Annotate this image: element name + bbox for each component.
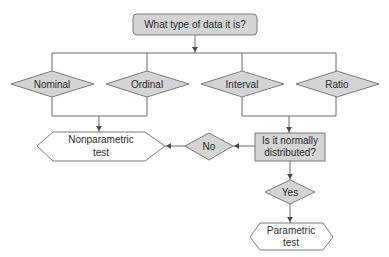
nonparametric-label-line2: test	[93, 147, 109, 158]
flowchart: What type of data it is? Nominal Ordinal…	[0, 0, 389, 257]
normal-label-line1: Is it normally	[262, 135, 318, 146]
ordinal-label: Ordinal	[131, 79, 163, 90]
node-parametric: Parametric test	[250, 223, 333, 250]
node-nonparametric: Nonparametric test	[37, 132, 165, 161]
arrow-down-icon	[192, 47, 198, 52]
arrow-down-icon	[96, 126, 102, 131]
parametric-label-line2: test	[283, 237, 299, 248]
arrow-down-icon	[286, 127, 292, 132]
arrow-down-icon	[287, 174, 293, 179]
parametric-label-line1: Parametric	[267, 225, 315, 236]
node-ratio: Ratio	[296, 71, 379, 97]
arrow-left-icon	[234, 143, 239, 149]
node-normal: Is it normally distributed?	[255, 133, 325, 161]
node-yes: Yes	[265, 180, 315, 204]
ratio-label: Ratio	[325, 79, 349, 90]
node-no: No	[185, 133, 233, 160]
normal-label-line2: distributed?	[264, 147, 316, 158]
arrow-left-icon	[166, 143, 171, 149]
node-interval: Interval	[201, 71, 284, 97]
node-question: What type of data it is?	[133, 14, 257, 35]
arrow-down-icon	[287, 217, 293, 222]
yes-label: Yes	[282, 187, 298, 198]
node-ordinal: Ordinal	[106, 71, 189, 97]
nominal-label: Nominal	[34, 79, 71, 90]
nonparametric-label-line1: Nonparametric	[68, 134, 134, 145]
node-nominal: Nominal	[11, 71, 94, 97]
question-label: What type of data it is?	[144, 19, 246, 30]
interval-label: Interval	[226, 79, 259, 90]
no-label: No	[203, 141, 216, 152]
